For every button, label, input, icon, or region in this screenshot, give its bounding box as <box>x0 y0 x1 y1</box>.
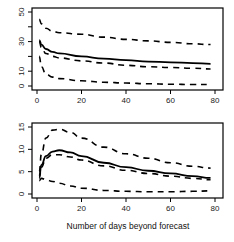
x-tick-label: 60 <box>166 204 175 213</box>
x-tick-label: 80 <box>211 96 220 105</box>
bottom-y-axis: 051015 <box>17 122 32 196</box>
x-tick-label: 80 <box>211 204 220 213</box>
bottom-series-lines <box>39 129 210 192</box>
y-tick-label: 10 <box>17 66 26 75</box>
x-tick-label: 60 <box>166 96 175 105</box>
x-tick-label: 20 <box>77 204 86 213</box>
x-tick-label: 0 <box>35 96 40 105</box>
bottom-panel: 051015 020406080 <box>17 122 223 213</box>
x-tick-label: 0 <box>35 204 40 213</box>
series-lower <box>39 178 210 191</box>
top-panel: 0103050 020406080 <box>17 7 223 105</box>
top-plot-frame <box>32 8 223 90</box>
x-tick-label: 40 <box>122 204 131 213</box>
y-tick-label: 10 <box>17 144 26 153</box>
forecast-chart: 0103050 020406080 051015 020406080 Numbe… <box>0 0 234 242</box>
x-tick-label: 40 <box>122 96 131 105</box>
top-y-axis: 0103050 <box>17 7 32 88</box>
series-median <box>39 40 210 64</box>
y-tick-label: 15 <box>17 122 26 131</box>
x-axis-title: Number of days beyond forecast <box>67 221 190 231</box>
y-tick-label: 50 <box>17 7 26 16</box>
top-x-axis: 020406080 <box>35 90 220 105</box>
top-series-lines <box>39 19 210 84</box>
y-tick-label: 30 <box>17 37 26 46</box>
y-tick-label: 0 <box>17 83 26 88</box>
bottom-x-axis: 020406080 <box>35 198 220 213</box>
bottom-plot-frame <box>32 123 223 198</box>
x-tick-label: 20 <box>77 96 86 105</box>
y-tick-label: 0 <box>17 191 26 196</box>
series-upper <box>39 19 210 44</box>
series-inner-lower <box>39 42 210 69</box>
y-tick-label: 5 <box>17 169 26 174</box>
